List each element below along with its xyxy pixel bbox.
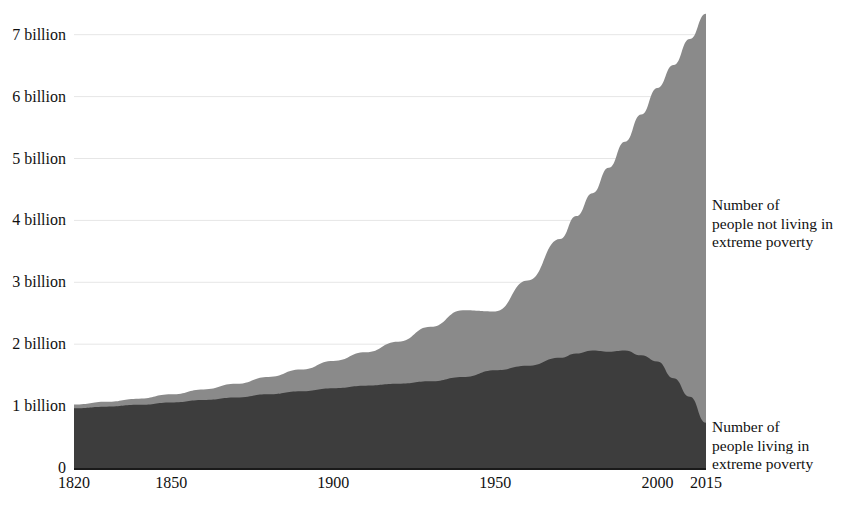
chart-figure: 01 billion2 billion3 billion4 billion5 b… (0, 0, 849, 507)
annotation-not-in-poverty: Number of people not living in extreme p… (712, 196, 847, 252)
y-tick-label-6: 6 billion (0, 89, 74, 105)
x-tick-label-2000: 2000 (641, 474, 673, 492)
x-tick-label-1950: 1950 (479, 474, 511, 492)
y-tick-label-4: 4 billion (0, 212, 74, 228)
y-tick-label-7: 7 billion (0, 27, 74, 43)
x-tick-label-1900: 1900 (317, 474, 349, 492)
y-tick-label-1: 1 billion (0, 398, 74, 414)
x-axis-line (74, 468, 706, 470)
y-tick-label-3: 3 billion (0, 274, 74, 290)
x-tick-label-1850: 1850 (155, 474, 187, 492)
annotation-in-poverty: Number of people living in extreme pover… (712, 418, 847, 474)
y-tick-label-2: 2 billion (0, 336, 74, 352)
x-tick-label-2015: 2015 (690, 474, 722, 492)
x-axis: 182018501900195020002015 (0, 474, 849, 498)
y-axis: 01 billion2 billion3 billion4 billion5 b… (0, 0, 74, 507)
plot-area (74, 0, 706, 469)
plot-svg (74, 0, 706, 469)
x-tick-label-1820: 1820 (58, 474, 90, 492)
y-tick-label-5: 5 billion (0, 151, 74, 167)
